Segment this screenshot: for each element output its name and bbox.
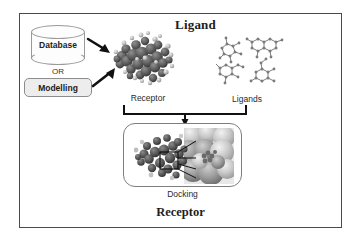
ligand-molecules-graphic <box>216 32 288 89</box>
docking-label: Docking <box>123 189 242 199</box>
or-separator-label: OR <box>31 67 85 76</box>
ligands-label: Ligands <box>217 94 277 104</box>
receptor-label: Receptor <box>118 93 178 103</box>
receptor-molecule-graphic <box>112 28 179 91</box>
docking-complex-graphic <box>134 128 234 184</box>
docking-panel <box>123 123 242 187</box>
modelling-box: Modelling <box>24 78 92 97</box>
cylinder-bottom <box>31 51 85 65</box>
modelling-label: Modelling <box>38 83 78 93</box>
cylinder-top <box>31 25 85 39</box>
figure-panel: Ligand Database OR Modelling <box>19 13 342 228</box>
database-cylinder-icon: Database <box>31 25 85 64</box>
page-title-receptor: Receptor <box>20 205 341 220</box>
database-label: Database <box>31 40 85 50</box>
